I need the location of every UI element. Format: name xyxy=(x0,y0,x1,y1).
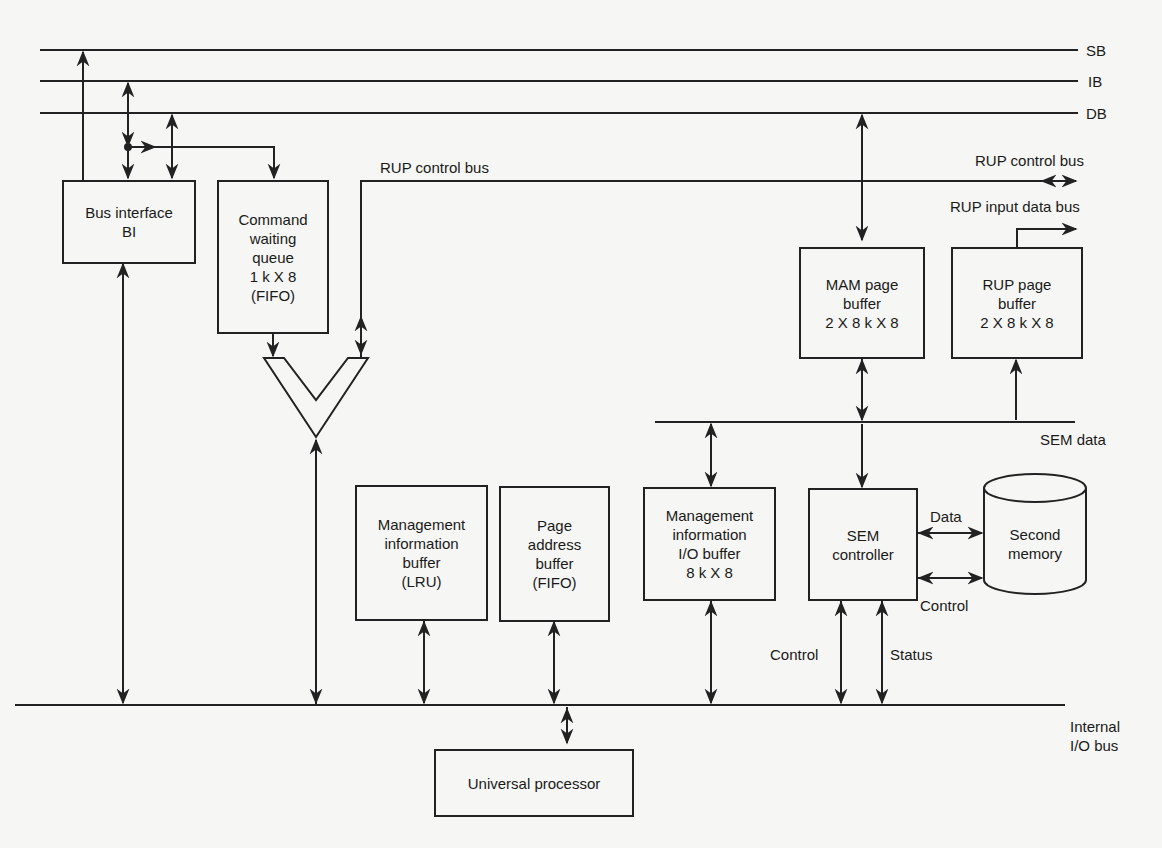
rup-input-data-bus-label: RUP input data bus xyxy=(950,197,1080,216)
management-information-io-buffer-block: Management information I/O buffer 8 k X … xyxy=(643,487,776,601)
second-memory-label: Second memory xyxy=(984,525,1086,563)
ib-label: IB xyxy=(1088,72,1102,91)
diagram-wiring xyxy=(0,0,1162,848)
mam-page-buffer-block: MAM page buffer 2 X 8 k X 8 xyxy=(799,247,925,359)
status-signal-label: Status xyxy=(890,645,933,664)
universal-processor-block: Universal processor xyxy=(434,749,634,817)
sb-label: SB xyxy=(1086,41,1106,60)
command-waiting-queue-block: Command waiting queue 1 k X 8 (FIFO) xyxy=(217,180,329,334)
rup-control-bus-right-label: RUP control bus xyxy=(975,151,1084,170)
control-signal-right-label: Control xyxy=(920,596,968,615)
sem-controller-block: SEM controller xyxy=(808,488,918,601)
bus-interface-block: Bus interface BI xyxy=(62,180,196,264)
db-label: DB xyxy=(1086,104,1107,123)
data-signal-label: Data xyxy=(930,507,962,526)
management-information-buffer-block: Management information buffer (LRU) xyxy=(355,485,488,621)
page-address-buffer-block: Page address buffer (FIFO) xyxy=(499,486,610,622)
control-signal-left-label: Control xyxy=(770,645,818,664)
sem-data-label: SEM data xyxy=(1040,430,1106,449)
rup-control-bus-left-label: RUP control bus xyxy=(380,158,489,177)
rup-page-buffer-block: RUP page buffer 2 X 8 k X 8 xyxy=(951,247,1083,359)
internal-io-bus-label: Internal I/O bus xyxy=(1070,717,1120,755)
